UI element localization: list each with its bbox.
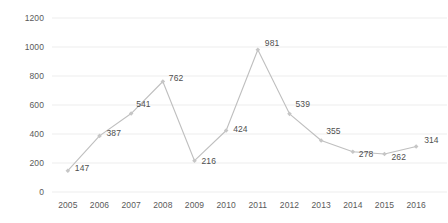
y-axis-tick-label: 1200 (4, 13, 44, 23)
data-point-label: 262 (392, 152, 406, 162)
data-point-marker (256, 47, 261, 52)
data-point-label: 216 (202, 156, 216, 166)
y-axis-tick-label: 0 (4, 187, 44, 197)
data-point-label: 314 (424, 135, 438, 145)
y-axis-tick-label: 1000 (4, 42, 44, 52)
data-point-marker (382, 152, 387, 157)
y-axis-tick-label: 600 (4, 100, 44, 110)
x-axis-tick-label: 2016 (396, 200, 436, 210)
chart-plot-area (0, 0, 448, 223)
y-axis-tick-label: 400 (4, 129, 44, 139)
y-axis-tick-label: 200 (4, 158, 44, 168)
data-point-label: 762 (169, 73, 183, 83)
y-axis-tick-label: 800 (4, 71, 44, 81)
data-point-label: 539 (296, 99, 310, 109)
line-chart: 020040060080010001200 200520062007200820… (0, 0, 448, 223)
data-point-label: 541 (136, 99, 150, 109)
data-point-label: 355 (326, 126, 340, 136)
data-point-marker (351, 149, 356, 154)
data-point-label: 147 (75, 163, 89, 173)
gridlines (52, 18, 447, 192)
data-point-label: 981 (265, 38, 279, 48)
data-point-label: 387 (107, 128, 121, 138)
data-point-marker (414, 144, 419, 149)
data-point-label: 278 (359, 149, 373, 159)
data-point-label: 424 (233, 124, 247, 134)
